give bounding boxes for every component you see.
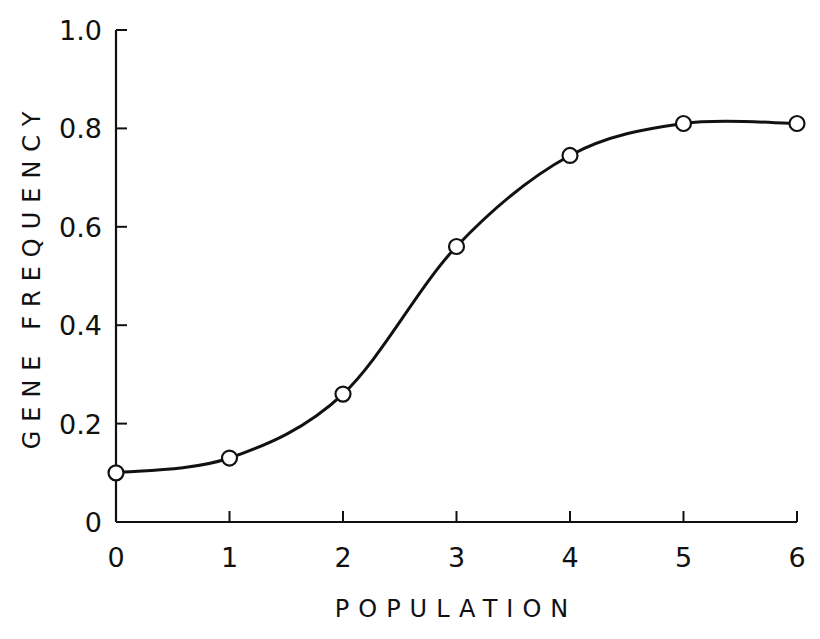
data-point-marker	[449, 239, 464, 254]
x-tick-label: 4	[561, 542, 578, 573]
x-tick-label: 2	[334, 542, 351, 573]
data-markers	[109, 116, 805, 480]
y-tick-label: 0.4	[59, 310, 102, 341]
x-tick-label: 5	[675, 542, 692, 573]
x-tick-label: 0	[107, 542, 124, 573]
x-tick-label: 3	[448, 542, 465, 573]
y-axis-title: GENE FREQUENCY	[18, 103, 46, 450]
data-point-marker	[222, 451, 237, 466]
x-ticks: 0123456	[107, 511, 805, 573]
data-point-marker	[676, 116, 691, 131]
data-curve	[116, 121, 797, 473]
data-point-marker	[563, 148, 578, 163]
data-point-marker	[109, 465, 124, 480]
y-tick-label: 0.2	[59, 409, 102, 440]
x-tick-label: 1	[221, 542, 238, 573]
y-tick-label: 0	[85, 507, 102, 538]
data-point-marker	[790, 116, 805, 131]
y-tick-label: 0.8	[59, 113, 102, 144]
y-tick-label: 1.0	[59, 15, 102, 46]
y-tick-label: 0.6	[59, 212, 102, 243]
data-point-marker	[336, 387, 351, 402]
axes	[116, 30, 797, 522]
x-tick-label: 6	[788, 542, 805, 573]
x-axis-title: POPULATION	[335, 595, 577, 623]
gene-frequency-chart: 00.20.40.60.81.0 0123456 POPULATION GENE…	[0, 0, 820, 639]
